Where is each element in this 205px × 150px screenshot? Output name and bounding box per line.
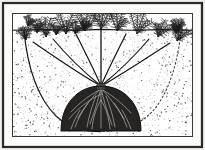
planting-diagram-svg: Shrub planted in a saucer-shaped plantin… [0, 0, 205, 150]
illustration-figure: Shrub planted in a saucer-shaped plantin… [0, 0, 205, 150]
plant-crown [96, 83, 106, 89]
